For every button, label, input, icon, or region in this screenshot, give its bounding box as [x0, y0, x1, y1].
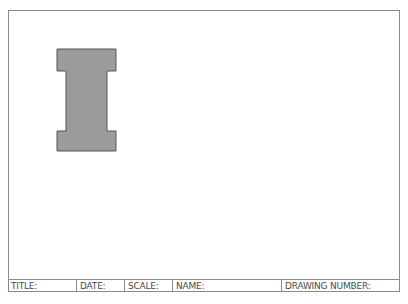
name-field[interactable]: NAME:	[173, 280, 282, 292]
drawing-area	[0, 0, 408, 279]
i-beam-polygon	[57, 49, 116, 151]
drawing-number-label: DRAWING NUMBER:	[285, 281, 371, 291]
scale-field[interactable]: SCALE:	[125, 280, 173, 292]
title-label: TITLE:	[11, 281, 37, 291]
drawing-number-field[interactable]: DRAWING NUMBER:	[282, 280, 400, 292]
name-label: NAME:	[176, 281, 204, 291]
title-field[interactable]: TITLE:	[8, 280, 77, 292]
i-beam-shape	[0, 0, 408, 279]
title-block: TITLE: DATE: SCALE: NAME: DRAWING NUMBER…	[8, 279, 400, 292]
date-label: DATE:	[80, 281, 105, 291]
date-field[interactable]: DATE:	[77, 280, 125, 292]
scale-label: SCALE:	[128, 281, 159, 291]
